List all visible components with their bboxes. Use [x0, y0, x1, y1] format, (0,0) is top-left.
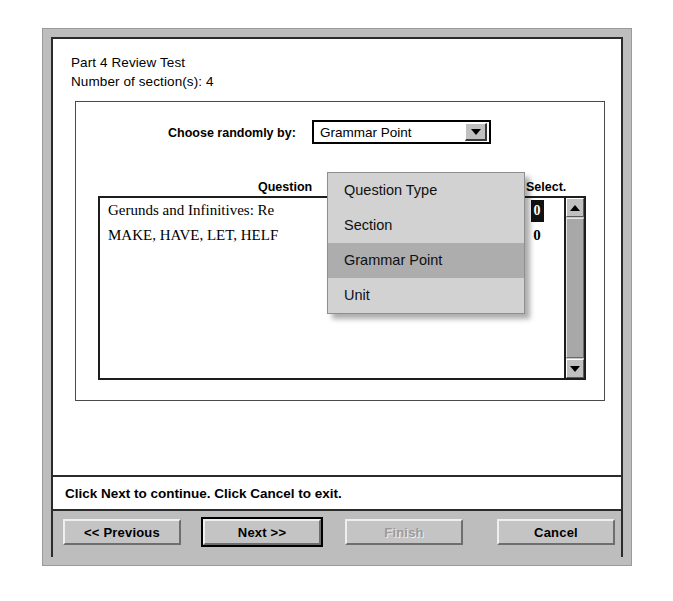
status-message: Click Next to continue. Click Cancel to … [53, 486, 342, 501]
dropdown-option-unit[interactable]: Unit [328, 278, 524, 313]
previous-button[interactable]: << Previous [63, 519, 181, 545]
next-button[interactable]: Next >> [203, 519, 321, 545]
status-bar: Click Next to continue. Click Cancel to … [53, 475, 621, 511]
choose-randomly-combobox[interactable]: Grammar Point [312, 120, 491, 144]
dropdown-option-section[interactable]: Section [328, 208, 524, 243]
column-header-select: Select. [526, 180, 566, 194]
cancel-button[interactable]: Cancel [497, 519, 615, 545]
dialog-client-area: Part 4 Review Test Number of section(s):… [51, 37, 623, 557]
dialog-window: Part 4 Review Test Number of section(s):… [42, 28, 632, 566]
triangle-up-icon[interactable] [566, 198, 584, 217]
dialog-button-bar: << Previous Next >> Finish Cancel [53, 511, 621, 557]
choose-randomly-label: Choose randomly by: [168, 126, 296, 140]
triangle-down-glyph [570, 366, 580, 372]
triangle-down-icon[interactable] [566, 359, 584, 378]
select-cell-value-selected: 0 [531, 200, 544, 222]
dropdown-option-question-type[interactable]: Question Type [328, 173, 524, 208]
section-count-label: Number of section(s): 4 [71, 72, 214, 91]
combobox-dropdown-list[interactable]: Question Type Section Grammar Point Unit [327, 172, 525, 314]
dropdown-option-grammar-point[interactable]: Grammar Point [328, 243, 524, 278]
column-header-question: Question [258, 180, 312, 194]
combobox-value: Grammar Point [314, 125, 465, 140]
finish-button: Finish [345, 519, 463, 545]
chevron-down-glyph [471, 129, 481, 135]
scrollbar-thumb[interactable] [566, 218, 584, 358]
triangle-up-glyph [570, 205, 580, 211]
page-title: Part 4 Review Test [71, 53, 214, 72]
dialog-header: Part 4 Review Test Number of section(s):… [71, 53, 214, 91]
list-vertical-scrollbar[interactable] [564, 198, 584, 378]
chevron-down-icon[interactable] [465, 123, 487, 141]
